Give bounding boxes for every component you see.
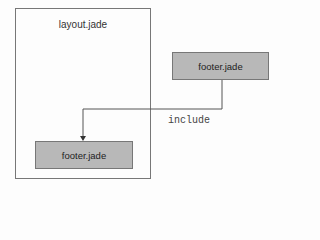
source-footer-node: footer.jade: [172, 52, 269, 80]
included-footer-node: footer.jade: [35, 141, 133, 169]
edge-label-include: include: [168, 115, 210, 126]
